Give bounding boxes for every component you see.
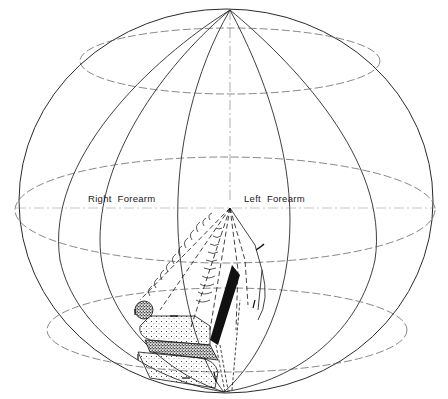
- sphere-outline: [19, 9, 433, 393]
- equator-ring: [15, 157, 435, 263]
- forearm-illustration: [135, 208, 265, 392]
- sphere-diagram: [0, 0, 448, 399]
- right-forearm-label: Right Forearm: [88, 193, 156, 204]
- left-forearm-label: Left Forearm: [244, 193, 305, 204]
- diagram-stage: Right Forearm Left Forearm: [0, 0, 448, 399]
